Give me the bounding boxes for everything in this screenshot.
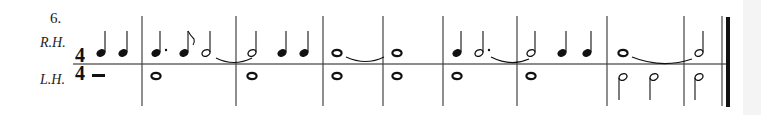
rh-notes xyxy=(96,31,704,64)
time-sig-bottom: 4 xyxy=(75,62,85,84)
lh-notes xyxy=(92,72,704,100)
page-edge xyxy=(743,0,761,115)
music-staff: 4 4 xyxy=(0,0,761,115)
half-rest xyxy=(92,74,105,77)
barlines xyxy=(142,16,722,106)
time-signature: 4 4 xyxy=(75,44,85,84)
final-barline xyxy=(726,17,730,107)
